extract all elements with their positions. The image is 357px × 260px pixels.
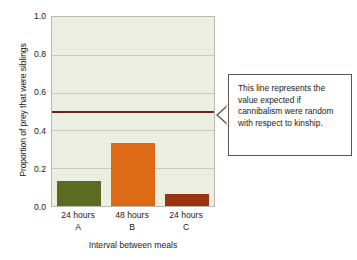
y-tick-label: 0.8 bbox=[22, 50, 46, 59]
y-tick-label: 0.2 bbox=[22, 165, 46, 174]
bar bbox=[165, 194, 209, 206]
x-tick-label-line1: 48 hours bbox=[115, 210, 148, 220]
x-tick-label-line1: 24 hours bbox=[169, 210, 202, 220]
annotation-callout: This line represents the value expected … bbox=[228, 74, 352, 156]
bar-chart-figure: Proportion of prey that were siblings 1.… bbox=[0, 0, 357, 260]
annotation-callout-text: This line represents the value expected … bbox=[238, 83, 345, 129]
x-tick-label-line1: 24 hours bbox=[61, 210, 94, 220]
y-tick-label: 0.6 bbox=[22, 88, 46, 97]
x-tick-label-line2: A bbox=[51, 222, 105, 234]
x-tick-label: 48 hoursB bbox=[105, 210, 159, 233]
bar bbox=[111, 143, 155, 206]
plot-area bbox=[51, 16, 215, 207]
x-axis-label: Interval between meals bbox=[51, 240, 215, 250]
bar bbox=[57, 181, 101, 206]
x-tick-label: 24 hoursC bbox=[159, 210, 213, 233]
x-tick-label: 24 hoursA bbox=[51, 210, 105, 233]
x-tick-label-line2: C bbox=[159, 222, 213, 234]
y-tick-label: 1.0 bbox=[22, 12, 46, 21]
y-tick-label: 0.4 bbox=[22, 127, 46, 136]
y-axis-ticks: 1.0 0.8 0.6 0.4 0.2 0.0 bbox=[20, 16, 46, 208]
y-tick-label: 0.0 bbox=[22, 203, 46, 212]
x-tick-label-line2: B bbox=[105, 222, 159, 234]
expected-value-line bbox=[52, 111, 214, 113]
x-axis-ticks: 24 hoursA48 hoursB24 hoursC bbox=[51, 210, 215, 242]
